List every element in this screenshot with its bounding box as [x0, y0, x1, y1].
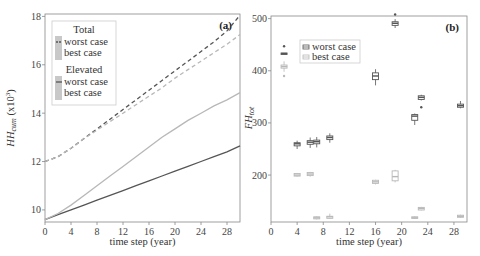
panel-label: (b) — [446, 21, 460, 34]
panel-label: (a) — [219, 19, 232, 32]
box-plot-item — [307, 172, 313, 177]
series-line — [45, 146, 240, 220]
x-tick-label: 0 — [43, 226, 48, 237]
box-plot-item — [412, 216, 418, 219]
box-plot-item — [314, 137, 320, 147]
box-plot-item — [418, 95, 424, 109]
x-tick-label: 4 — [295, 226, 300, 237]
y-axis-label: HHcum (x103) — [4, 89, 18, 148]
legend: Totalworst casebest caseElevatedworst ca… — [52, 21, 116, 105]
y-tick-label: 12 — [31, 156, 41, 167]
y-tick-label: 400 — [252, 65, 267, 76]
box-plot-item — [392, 170, 398, 183]
legend-swatch — [55, 36, 62, 60]
x-axis-label: time step (year) — [110, 236, 176, 248]
box-plot-item — [281, 61, 287, 77]
box-plot-item — [307, 138, 313, 148]
legend-entry: best case — [64, 47, 102, 58]
legend-entry: worst case — [64, 36, 108, 47]
x-tick-label: 0 — [269, 226, 274, 237]
box-plot-item — [418, 207, 424, 211]
box-plot-item — [373, 180, 379, 185]
box-plot-item — [294, 141, 300, 149]
box — [412, 115, 418, 121]
series-line — [45, 93, 240, 220]
box-plot-item — [327, 133, 333, 142]
y-tick-label: 16 — [31, 59, 41, 70]
x-tick-label: 28 — [222, 226, 232, 237]
box-plot-item — [412, 114, 418, 125]
legend: worst casebest case — [300, 40, 360, 63]
panel-a-line-chart: 04812162024281012141618time step (year)(… — [4, 11, 240, 248]
x-tick-label: 8 — [321, 226, 326, 237]
x-tick-label: 8 — [95, 226, 100, 237]
box-plot-item — [392, 13, 398, 28]
outlier-point — [283, 75, 285, 77]
figure: 04812162024281012141618time step (year)(… — [0, 0, 480, 256]
y-tick-label: 10 — [31, 204, 41, 215]
y-tick-label: 500 — [252, 13, 267, 24]
box-plot-item — [294, 173, 300, 177]
box-plot-item — [373, 69, 379, 85]
x-tick-label: 28 — [449, 226, 459, 237]
panel-b-box-plot: 0481216202428200300400500time step (year… — [243, 13, 467, 248]
legend-swatch — [55, 76, 62, 100]
y-tick-label: 18 — [31, 11, 41, 22]
outlier-point — [394, 13, 396, 15]
legend-entry: worst case — [64, 76, 108, 87]
y-tick-label: 200 — [252, 170, 267, 181]
box — [392, 171, 398, 181]
x-axis-label: time step (year) — [336, 236, 402, 248]
y-tick-label: 300 — [252, 117, 267, 128]
legend-entry: best case — [64, 87, 102, 98]
outlier-point — [420, 106, 422, 108]
box-plot-item — [457, 101, 463, 108]
x-tick-label: 4 — [69, 226, 74, 237]
box-plot-item — [314, 216, 320, 219]
legend-group-title: Elevated — [66, 64, 103, 75]
y-tick-label: 14 — [31, 108, 41, 119]
x-tick-label: 24 — [423, 226, 433, 237]
box-plot-item — [281, 45, 287, 54]
x-tick-label: 24 — [196, 226, 206, 237]
box-plot-item — [327, 214, 333, 219]
legend-entry: best case — [312, 51, 350, 62]
legend-group-title: Total — [73, 24, 95, 35]
box-plot-item — [457, 215, 463, 218]
outlier-point — [283, 45, 285, 47]
